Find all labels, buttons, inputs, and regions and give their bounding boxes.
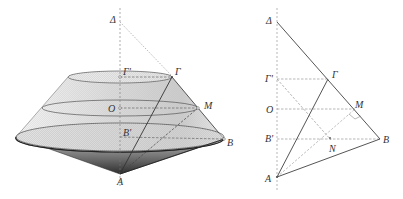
left-3d-solid: Δ Γ' Γ O M B' B A [16, 8, 233, 188]
label-b-prime-right: B' [265, 133, 274, 144]
line-a-m [277, 109, 355, 177]
label-b-prime: B' [123, 127, 132, 138]
label-gamma-prime: Γ' [122, 66, 132, 77]
label-m: M [203, 100, 213, 111]
label-o: O [108, 103, 115, 114]
label-a: A [116, 176, 124, 187]
label-gamma-prime-right: Γ' [264, 73, 274, 84]
label-n: N [328, 143, 337, 154]
right-cross-section: Δ Γ' Γ O M B' B N A [264, 8, 389, 190]
label-gamma-right: Γ [331, 69, 338, 80]
geometry-diagram: Δ Γ' Γ O M B' B A Δ Γ' Γ O M [0, 0, 403, 199]
label-o-right: O [266, 104, 273, 115]
label-a-right: A [264, 173, 272, 184]
label-delta-right: Δ [265, 15, 272, 26]
label-delta: Δ [109, 14, 116, 25]
label-b-right: B [383, 134, 389, 145]
label-b: B [227, 137, 233, 148]
segment-delta-b [277, 22, 380, 139]
label-gamma: Γ [174, 66, 181, 77]
label-m-right: M [354, 99, 364, 110]
